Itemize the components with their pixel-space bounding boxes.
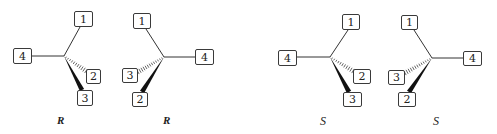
molecule-3 [297,30,354,93]
priority-box-4: 4 [278,50,297,66]
priority-box-1: 1 [342,14,360,30]
configuration-label: R [163,114,170,126]
priority-box-3: 3 [343,92,362,107]
single-bond [414,30,432,58]
wedge-bond [407,58,432,93]
molecule-1 [32,27,87,91]
priority-box-4: 4 [463,51,482,66]
priority-box-2: 2 [398,92,416,107]
wedge-bond [140,57,164,93]
configuration-label: S [320,114,326,129]
single-bond [146,29,164,57]
priority-box-3: 3 [122,68,138,83]
molecule-2 [137,29,195,93]
stereocenter-diagram: 1234R1234R1234S1234S [0,0,497,134]
configuration-label: R [57,114,64,126]
single-bond [330,30,348,57]
priority-box-1: 1 [133,13,151,29]
priority-box-2: 2 [353,69,371,84]
priority-box-1: 1 [74,11,93,27]
priority-box-3: 3 [77,90,93,106]
configuration-label: S [433,114,439,129]
molecule-4 [404,30,463,93]
priority-box-2: 2 [132,92,148,107]
priority-box-2: 2 [86,69,101,84]
priority-box-1: 1 [401,15,418,30]
priority-box-3: 3 [388,70,405,85]
wedge-bond [64,56,84,91]
single-bond [64,27,80,56]
priority-box-4: 4 [195,49,214,65]
priority-box-4: 4 [13,48,32,64]
